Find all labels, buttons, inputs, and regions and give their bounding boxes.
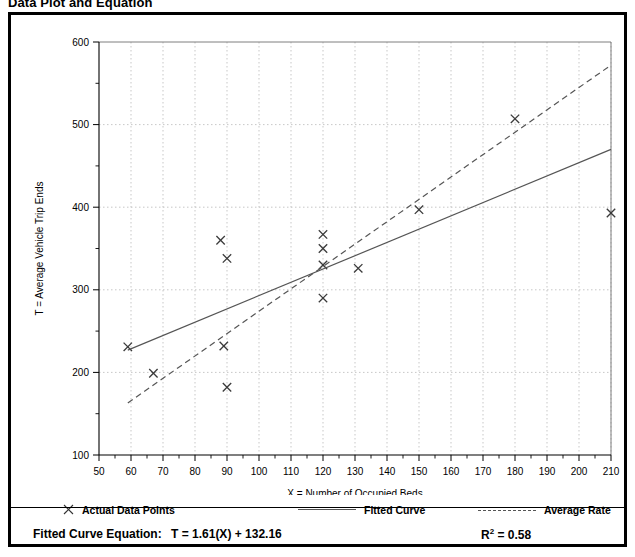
x-marker-icon: [63, 501, 74, 519]
fitted-curve-equation: Fitted Curve Equation: T = 1.61(X) + 132…: [33, 527, 282, 541]
solid-line-icon: [298, 509, 356, 510]
legend-item-fitted-curve: Fitted Curve: [298, 499, 425, 521]
equation-value: T = 1.61(X) + 132.16: [171, 527, 282, 541]
svg-text:200: 200: [571, 466, 588, 477]
svg-text:90: 90: [221, 466, 233, 477]
svg-text:130: 130: [347, 466, 364, 477]
r-squared-number: = 0.58: [497, 528, 531, 542]
svg-text:190: 190: [539, 466, 556, 477]
chart-legend: Actual Data Points Fitted Curve Average …: [11, 499, 630, 521]
svg-text:70: 70: [157, 466, 169, 477]
r-squared-value: R2 = 0.58: [481, 527, 531, 542]
svg-text:X = Number of Occupied Beds: X = Number of Occupied Beds: [287, 488, 422, 495]
scatter-plot-svg: 1002003004005006005060708090100110120130…: [11, 15, 624, 495]
equation-label: Fitted Curve Equation:: [33, 527, 162, 541]
plot-area: 1002003004005006005060708090100110120130…: [11, 15, 630, 495]
r-squared-label: R: [481, 528, 490, 542]
svg-text:210: 210: [603, 466, 620, 477]
svg-text:600: 600: [72, 37, 89, 48]
svg-text:120: 120: [315, 466, 332, 477]
equation-row: Fitted Curve Equation: T = 1.61(X) + 132…: [11, 527, 630, 549]
svg-text:180: 180: [507, 466, 524, 477]
chart-panel: 1002003004005006005060708090100110120130…: [8, 12, 627, 547]
legend-item-average-rate: Average Rate: [478, 499, 611, 521]
svg-text:T = Average Vehicle Trip Ends: T = Average Vehicle Trip Ends: [34, 182, 45, 316]
svg-text:60: 60: [125, 466, 137, 477]
svg-text:140: 140: [379, 466, 396, 477]
svg-text:200: 200: [72, 367, 89, 378]
svg-text:160: 160: [443, 466, 460, 477]
svg-text:400: 400: [72, 202, 89, 213]
svg-text:50: 50: [93, 466, 105, 477]
svg-text:300: 300: [72, 284, 89, 295]
legend-label-actual-data-points: Actual Data Points: [82, 504, 175, 516]
svg-text:110: 110: [283, 466, 299, 477]
svg-text:100: 100: [251, 466, 268, 477]
svg-text:100: 100: [72, 450, 89, 461]
footer-divider: [11, 507, 624, 508]
legend-label-average-rate: Average Rate: [544, 504, 611, 516]
svg-text:500: 500: [72, 119, 89, 130]
legend-label-fitted-curve: Fitted Curve: [364, 504, 425, 516]
svg-text:170: 170: [475, 466, 492, 477]
svg-text:150: 150: [411, 466, 428, 477]
svg-text:80: 80: [189, 466, 201, 477]
page-title: Data Plot and Equation: [8, 0, 152, 10]
screenshot-root: Data Plot and Equation 10020030040050060…: [0, 0, 635, 557]
dashed-line-icon: [478, 510, 536, 511]
r-squared-exponent: 2: [490, 527, 494, 536]
legend-item-actual-data-points: Actual Data Points: [63, 499, 175, 521]
